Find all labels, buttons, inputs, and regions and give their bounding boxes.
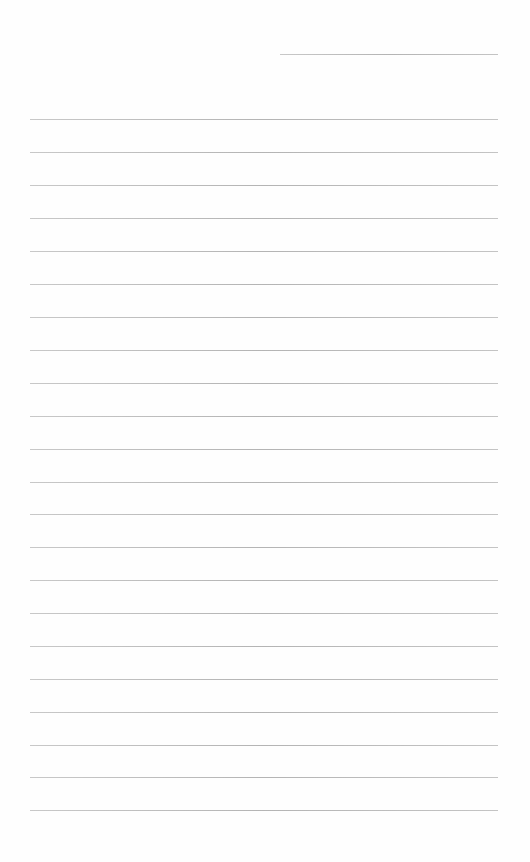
ruled-line: [30, 646, 498, 647]
ruled-line: [30, 613, 498, 614]
ruled-line: [30, 119, 498, 120]
ruled-line: [30, 350, 498, 351]
header-line: [280, 54, 498, 55]
ruled-line: [30, 284, 498, 285]
ruled-line: [30, 152, 498, 153]
ruled-line: [30, 383, 498, 384]
ruled-line: [30, 514, 498, 515]
ruled-line: [30, 185, 498, 186]
ruled-line: [30, 745, 498, 746]
ruled-line: [30, 482, 498, 483]
ruled-line: [30, 251, 498, 252]
ruled-line: [30, 777, 498, 778]
ruled-line: [30, 218, 498, 219]
ruled-line: [30, 580, 498, 581]
ruled-line: [30, 416, 498, 417]
ruled-line: [30, 547, 498, 548]
ruled-line: [30, 449, 498, 450]
ruled-line: [30, 317, 498, 318]
lined-paper-page: [0, 0, 530, 862]
ruled-line: [30, 810, 498, 811]
ruled-line: [30, 679, 498, 680]
ruled-line: [30, 712, 498, 713]
